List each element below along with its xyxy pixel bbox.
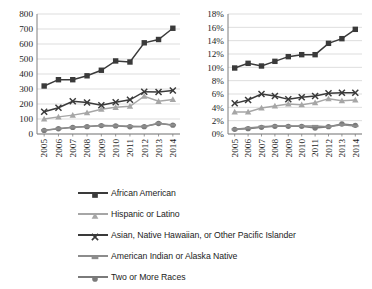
x-tick-label: 2010 bbox=[111, 139, 121, 158]
x-tick-label: 2008 bbox=[270, 139, 280, 158]
legend-item-label: Asian, Native Hawaiian, or Other Pacific… bbox=[111, 231, 296, 240]
y-tick-label: 200 bbox=[19, 99, 33, 109]
x-tick-label: 2011 bbox=[125, 139, 135, 157]
x-tick-label: 2009 bbox=[97, 139, 107, 158]
chart-panel-percent: 0%2%4%6%8%10%12%14%16%18%200520062007200… bbox=[188, 0, 372, 182]
series-asian-native-hawaiian-or-other-pacific-islander bbox=[41, 88, 176, 115]
x-tick-label: 2011 bbox=[310, 139, 320, 157]
y-tick-label: 4% bbox=[212, 103, 225, 113]
legend-glyph bbox=[89, 252, 101, 264]
y-tick-label: 800 bbox=[19, 9, 33, 19]
x-tick-label: 2005 bbox=[39, 139, 49, 158]
legend-item-label: American Indian or Alaska Native bbox=[111, 252, 237, 261]
y-tick-label: 100 bbox=[19, 114, 33, 124]
y-tick-label: 6% bbox=[212, 89, 225, 99]
legend-item[interactable]: Two or More Races bbox=[78, 268, 185, 286]
y-tick-label: 12% bbox=[207, 49, 224, 59]
x-tick-label: 2008 bbox=[82, 139, 92, 158]
x-tick-label: 2014 bbox=[168, 139, 178, 158]
y-tick-label: 10% bbox=[207, 63, 224, 73]
chart-panel-counts: 0100200300400500600700800200520062007200… bbox=[0, 0, 188, 182]
x-tick-label: 2012 bbox=[140, 139, 150, 158]
x-tick-label: 2014 bbox=[351, 139, 361, 158]
x-tick-label: 2010 bbox=[297, 139, 307, 158]
charts-row: 0100200300400500600700800200520062007200… bbox=[0, 0, 372, 182]
series-african-american bbox=[41, 26, 175, 89]
legend-marker-triangle-icon bbox=[78, 208, 108, 220]
legend-item[interactable]: African American bbox=[78, 184, 176, 202]
legend-marker-x-icon bbox=[78, 229, 108, 241]
y-tick-label: 18% bbox=[207, 9, 224, 19]
legend-item-label: African American bbox=[111, 189, 176, 198]
series-american-indian-or-alaska-native bbox=[41, 122, 176, 131]
legend-glyph bbox=[89, 189, 101, 201]
x-tick-label: 2007 bbox=[68, 139, 78, 158]
series-hispanic-or-latino bbox=[41, 93, 176, 122]
y-tick-label: 14% bbox=[207, 36, 224, 46]
y-tick-label: 8% bbox=[212, 76, 225, 86]
x-tick-label: 2013 bbox=[337, 139, 347, 158]
legend-item-label: Hispanic or Latino bbox=[111, 210, 180, 219]
x-tick-label: 2005 bbox=[230, 139, 240, 158]
legend-glyph bbox=[89, 273, 101, 285]
x-tick-label: 2007 bbox=[257, 139, 267, 158]
x-tick-label: 2006 bbox=[243, 139, 253, 158]
y-tick-label: 600 bbox=[19, 39, 33, 49]
y-tick-label: 300 bbox=[19, 84, 33, 94]
y-tick-label: 700 bbox=[19, 24, 33, 34]
legend-marker-dash-icon bbox=[78, 250, 108, 262]
legend-marker-diamond-icon bbox=[78, 271, 108, 283]
x-tick-label: 2012 bbox=[324, 139, 334, 158]
line-chart-counts: 0100200300400500600700800200520062007200… bbox=[0, 0, 188, 182]
x-tick-label: 2009 bbox=[284, 139, 294, 158]
x-tick-label: 2013 bbox=[154, 139, 164, 158]
legend-item[interactable]: Asian, Native Hawaiian, or Other Pacific… bbox=[78, 226, 296, 244]
legend-glyph bbox=[89, 210, 101, 222]
y-tick-label: 2% bbox=[212, 116, 225, 126]
figure-container: 0100200300400500600700800200520062007200… bbox=[0, 0, 372, 289]
legend-item-label: Two or More Races bbox=[111, 273, 185, 282]
y-tick-label: 0% bbox=[212, 129, 225, 139]
legend-item[interactable]: American Indian or Alaska Native bbox=[78, 247, 237, 265]
line-chart-percent: 0%2%4%6%8%10%12%14%16%18%200520062007200… bbox=[188, 0, 372, 182]
legend-glyph bbox=[89, 231, 101, 243]
x-tick-label: 2006 bbox=[54, 139, 64, 158]
y-tick-label: 16% bbox=[207, 23, 224, 33]
y-tick-label: 500 bbox=[19, 54, 33, 64]
y-tick-label: 400 bbox=[19, 69, 33, 79]
legend-marker-square-icon bbox=[78, 187, 108, 199]
legend-item[interactable]: Hispanic or Latino bbox=[78, 205, 180, 223]
chart-legend: African AmericanHispanic or LatinoAsian,… bbox=[0, 182, 372, 289]
y-tick-label: 0 bbox=[28, 129, 33, 139]
series-african-american bbox=[232, 27, 358, 71]
